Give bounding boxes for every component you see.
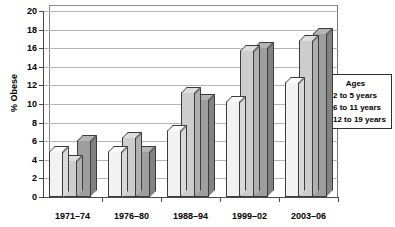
- x-axis-tick-label: 2003–06: [274, 211, 344, 221]
- x-axis-tick: [102, 197, 103, 202]
- y-axis-tick-label: 4: [32, 155, 37, 165]
- bar-side-face: [327, 28, 333, 196]
- legend-label: 2 to 5 years: [333, 91, 377, 100]
- bar-group: [43, 11, 102, 197]
- bar-side-face: [240, 96, 246, 196]
- bar-side-face: [136, 132, 142, 196]
- y-axis-tick-label: 12: [27, 80, 37, 90]
- y-axis-tick-label: 18: [27, 25, 37, 35]
- x-axis-tick: [279, 197, 280, 202]
- bar: [49, 151, 63, 198]
- bar-side-face: [77, 155, 83, 196]
- legend-label: 6 to 11 years: [333, 103, 381, 112]
- y-axis-tick-label: 2: [32, 173, 37, 183]
- plot-area: 02468101214161820 1971–741976–801988–941…: [43, 11, 338, 197]
- bar: [108, 151, 122, 198]
- y-axis-tick-label: 10: [27, 99, 37, 109]
- gridline: [43, 197, 338, 198]
- bar: [167, 130, 181, 197]
- bar-side-face: [122, 146, 128, 197]
- y-axis-tick-label: 20: [27, 6, 37, 16]
- bar-side-face: [195, 87, 201, 196]
- bar-chart: % Obese 02468101214161820 1971–741976–80…: [0, 0, 395, 227]
- bar-side-face: [299, 77, 305, 196]
- bar-group: [279, 11, 338, 197]
- bar-side-face: [209, 94, 215, 196]
- bar-side-face: [254, 45, 260, 196]
- x-axis-tick: [220, 197, 221, 202]
- y-axis-label: % Obese: [9, 53, 19, 133]
- bar: [285, 82, 299, 197]
- y-axis-tick-label: 14: [27, 62, 37, 72]
- bar-side-face: [63, 146, 69, 197]
- bar-group: [102, 11, 161, 197]
- bar-side-face: [313, 35, 319, 196]
- y-axis-tick-label: 0: [32, 192, 37, 202]
- x-axis-tick: [338, 197, 339, 202]
- y-axis-tick-label: 6: [32, 136, 37, 146]
- plot-top-border: [49, 5, 338, 6]
- bar-side-face: [150, 146, 156, 197]
- bar-group: [220, 11, 279, 197]
- bar-side-face: [268, 42, 274, 196]
- y-axis-tick: [39, 197, 44, 198]
- bar-group: [161, 11, 220, 197]
- bar-side-face: [91, 135, 97, 196]
- y-axis-tick-label: 8: [32, 118, 37, 128]
- legend-label: 12 to 19 years: [333, 115, 386, 124]
- bar: [226, 101, 240, 197]
- y-axis-tick-label: 16: [27, 43, 37, 53]
- x-axis-tick: [161, 197, 162, 202]
- bar-side-face: [181, 125, 187, 196]
